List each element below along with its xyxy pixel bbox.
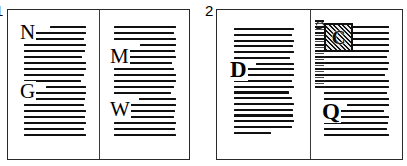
initial-capital-N: N (20, 22, 36, 42)
panel-number-1: 1 (0, 3, 3, 18)
initial-capital-D: D (230, 59, 248, 81)
page-1-recto: M W (99, 10, 191, 159)
historiated-initial-block (315, 23, 355, 93)
initial-capital-W: W (110, 99, 131, 119)
initial-capital-G: G (20, 81, 36, 101)
historiated-initial-C (324, 23, 353, 52)
initial-capital-Q: Q (322, 101, 341, 123)
book-spread-2: D (216, 9, 403, 160)
marginal-vine-ornament (315, 20, 324, 88)
page-1-verso: N G (8, 10, 99, 159)
initial-capital-M: M (110, 46, 130, 66)
page-2-recto: Q (310, 10, 404, 159)
page-2-verso: D (217, 10, 310, 159)
book-layout-figure: 1 (0, 0, 407, 166)
book-spread-1: N G (7, 9, 190, 160)
panel-number-2: 2 (205, 3, 213, 18)
